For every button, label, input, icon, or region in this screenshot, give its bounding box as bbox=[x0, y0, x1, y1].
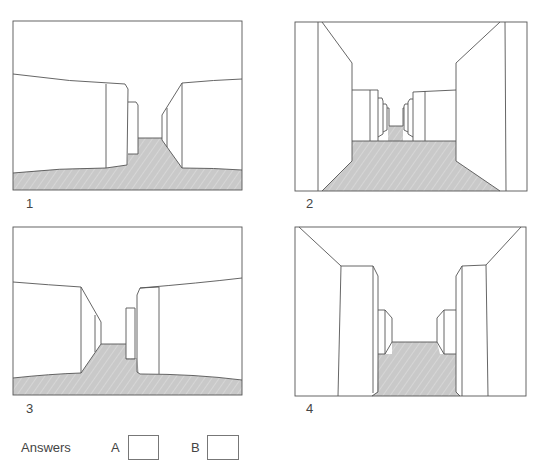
answer-b-box[interactable] bbox=[207, 435, 239, 460]
figure-3-number: 3 bbox=[26, 401, 33, 416]
corridor-figures bbox=[0, 0, 534, 465]
answer-a-letter: A bbox=[111, 440, 120, 455]
figure-4-number: 4 bbox=[306, 401, 313, 416]
figure-1-number: 1 bbox=[26, 196, 33, 211]
figure-2-number: 2 bbox=[306, 196, 313, 211]
answers-label: Answers bbox=[21, 440, 71, 455]
answer-a-box[interactable] bbox=[128, 435, 159, 460]
figure-2-corridor bbox=[295, 22, 527, 191]
figure-3-corridor bbox=[13, 227, 242, 395]
figure-1-corridor bbox=[13, 21, 242, 190]
figure-4-corridor bbox=[295, 227, 526, 396]
answer-b-letter: B bbox=[191, 440, 200, 455]
